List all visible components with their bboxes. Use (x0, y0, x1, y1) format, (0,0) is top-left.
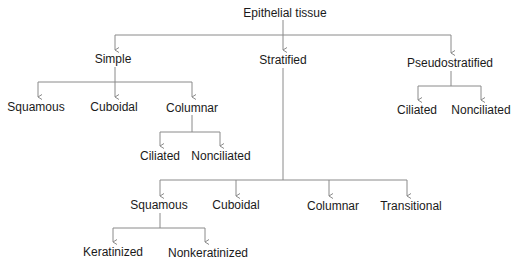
node-simple: Simple (95, 52, 132, 66)
node-keratinized: Keratinized (83, 245, 143, 259)
node-simple-columnar: Columnar (166, 101, 218, 115)
node-epithelial-tissue: Epithelial tissue (243, 6, 326, 20)
node-stratified-transitional: Transitional (380, 199, 442, 213)
node-stratified-columnar: Columnar (307, 199, 359, 213)
node-simple-columnar-ciliated: Ciliated (140, 149, 180, 163)
node-simple-cuboidal: Cuboidal (90, 100, 137, 114)
node-pseudostratified-nonciliated: Nonciliated (451, 103, 510, 117)
node-simple-columnar-nonciliated: Nonciliated (191, 149, 250, 163)
tree-connectors (0, 0, 518, 269)
node-pseudostratified: Pseudostratified (407, 56, 493, 70)
node-stratified-squamous: Squamous (130, 198, 187, 212)
node-pseudostratified-ciliated: Ciliated (397, 103, 437, 117)
node-simple-squamous: Squamous (7, 100, 64, 114)
node-stratified: Stratified (259, 53, 306, 67)
node-stratified-cuboidal: Cuboidal (212, 198, 259, 212)
node-nonkeratinized: Nonkeratinized (168, 246, 248, 260)
